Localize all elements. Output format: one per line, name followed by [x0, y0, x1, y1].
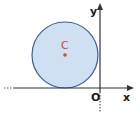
- y-axis-arrow-icon: [97, 3, 103, 10]
- center-point: [63, 53, 67, 57]
- origin-label: O: [91, 91, 100, 104]
- diagram-canvas: C y O x: [0, 0, 140, 118]
- y-axis-label: y: [90, 5, 97, 18]
- x-axis-label: x: [123, 91, 130, 104]
- center-label: C: [61, 39, 69, 52]
- coordinate-plane: C y O x: [0, 0, 140, 118]
